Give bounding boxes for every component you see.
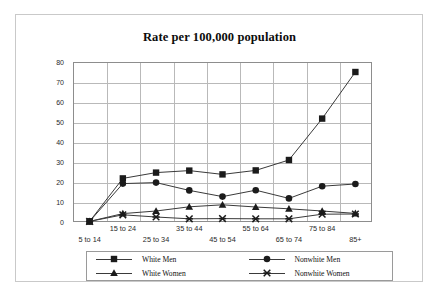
data-point-circle <box>352 181 359 188</box>
data-point-x <box>152 214 159 221</box>
legend-label: Nonwhite Women <box>295 269 350 278</box>
y-axis-tick-label: 50 <box>40 119 64 126</box>
x-axis-tick-label: 45 to 54 <box>193 236 253 244</box>
y-axis-tick-label: 70 <box>40 79 64 86</box>
legend-label: Nonwhite Men <box>295 255 341 264</box>
data-point-triangle <box>219 201 227 208</box>
data-point-circle <box>186 187 193 194</box>
y-axis-tick-label: 80 <box>40 59 64 66</box>
chart-legend: White MenNonwhite MenWhite WomenNonwhite… <box>86 251 393 281</box>
legend-item-white-men[interactable]: White Men <box>87 254 240 264</box>
data-point-x <box>219 215 226 222</box>
x-axis-tick-label: 55 to 64 <box>226 225 286 233</box>
series-layer <box>73 62 372 222</box>
data-point-square <box>186 167 192 173</box>
y-axis-tick-label: 60 <box>40 99 64 106</box>
data-point-circle <box>286 195 293 202</box>
data-point-square <box>352 69 358 75</box>
data-point-circle <box>263 256 270 263</box>
data-point-circle <box>153 179 160 186</box>
y-axis-tick-label: 0 <box>40 219 64 226</box>
x-axis-tick-label: 65 to 74 <box>259 236 319 244</box>
y-axis-tick-label: 20 <box>40 179 64 186</box>
data-point-x <box>186 216 193 223</box>
legend-marker-circle-icon <box>249 254 285 264</box>
x-axis-tick-label: 85+ <box>325 236 385 244</box>
legend-marker-triangle-icon <box>96 268 132 278</box>
y-axis-tick-label: 40 <box>40 139 64 146</box>
data-point-circle <box>219 193 226 200</box>
legend-marker-square-icon <box>96 254 132 264</box>
data-point-x <box>252 216 259 223</box>
legend-label: White Men <box>142 255 176 264</box>
data-point-square <box>219 171 225 177</box>
data-point-square <box>319 115 325 121</box>
x-axis-tick-label: 35 to 44 <box>159 225 219 233</box>
legend-item-nonwhite-women[interactable]: Nonwhite Women <box>240 268 393 278</box>
data-point-circle <box>252 187 259 194</box>
y-axis-tick-label: 10 <box>40 199 64 206</box>
data-point-square <box>111 256 117 262</box>
data-point-square <box>253 167 259 173</box>
data-point-circle <box>120 180 127 187</box>
data-point-triangle <box>110 269 118 276</box>
y-axis-tick-label: 30 <box>40 159 64 166</box>
data-point-x <box>285 216 292 223</box>
legend-item-nonwhite-men[interactable]: Nonwhite Men <box>240 254 393 264</box>
legend-item-white-women[interactable]: White Women <box>87 268 240 278</box>
legend-marker-x-icon <box>249 268 285 278</box>
x-axis-tick-label: 15 to 24 <box>93 225 153 233</box>
x-axis-tick-label: 75 to 84 <box>292 225 352 233</box>
legend-label: White Women <box>142 269 186 278</box>
data-point-circle <box>319 183 326 190</box>
data-point-square <box>286 157 292 163</box>
data-point-x <box>263 270 270 277</box>
x-axis-tick-label: 5 to 14 <box>60 236 120 244</box>
x-axis-tick-label: 25 to 34 <box>126 236 186 244</box>
data-point-square <box>153 169 159 175</box>
